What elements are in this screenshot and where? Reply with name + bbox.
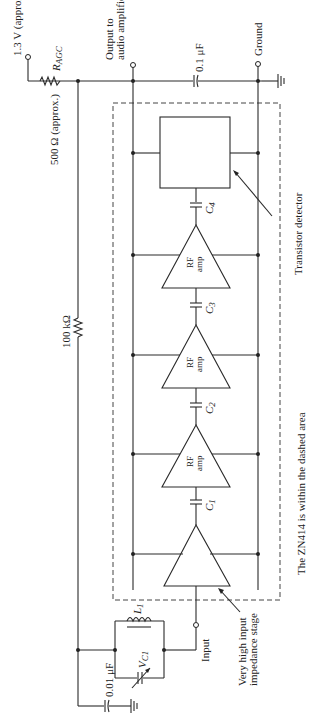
feedback-res-label: 100 kΩ bbox=[60, 315, 72, 348]
rf-amp-3 bbox=[162, 225, 230, 288]
input-stage-amp bbox=[164, 525, 230, 586]
c3-label: C3 bbox=[203, 302, 217, 314]
input-terminal-icon bbox=[194, 623, 199, 628]
varcap-label: VC1 bbox=[136, 651, 150, 668]
output-label-line2: audio amplifier bbox=[114, 0, 126, 60]
inductor-label: L1 bbox=[131, 603, 145, 615]
amp3-label2: amp bbox=[194, 256, 204, 272]
ground-symbol-icon bbox=[262, 74, 284, 88]
input-capacitor-icon bbox=[105, 700, 109, 712]
amp2-label2: amp bbox=[194, 356, 204, 372]
input-stage-pointer bbox=[220, 590, 240, 612]
caption-label: The ZN414 is within the dashed area bbox=[295, 412, 307, 575]
supply-label: 1.3 V (approx.) bbox=[11, 0, 24, 56]
detector-pointer-arrow bbox=[235, 172, 272, 216]
ground-terminal-icon bbox=[256, 62, 261, 67]
c4-label: C4 bbox=[203, 202, 217, 214]
output-capacitor-icon bbox=[193, 75, 198, 87]
input-stage-label-line2: impedance stage bbox=[247, 613, 259, 686]
output-cap-label: 0.1 μF bbox=[193, 43, 205, 72]
c1-label: C1 bbox=[203, 499, 217, 511]
input-cap-label: 0.01 μF bbox=[103, 663, 115, 697]
supply-terminal-icon bbox=[26, 55, 31, 60]
rf-amp-2 bbox=[162, 325, 230, 388]
transistor-detector-box bbox=[160, 117, 230, 188]
amp1-label2: amp bbox=[194, 455, 204, 471]
ragc-label: RAGC bbox=[50, 45, 64, 72]
c2-label: C2 bbox=[203, 402, 217, 414]
input-label: Input bbox=[199, 639, 211, 662]
detector-label: Transistor detector bbox=[292, 192, 304, 275]
feedback-resistor-icon bbox=[74, 318, 82, 337]
ragc-value-label: 500 Ω (approx.) bbox=[48, 94, 61, 165]
output-terminal-icon bbox=[131, 63, 136, 68]
ground-label: Ground bbox=[252, 22, 264, 56]
circuit-diagram: 1.3 V (approx.) RAGC 500 Ω (approx.) Out… bbox=[0, 0, 327, 719]
input-ground-symbol-icon bbox=[131, 699, 137, 713]
